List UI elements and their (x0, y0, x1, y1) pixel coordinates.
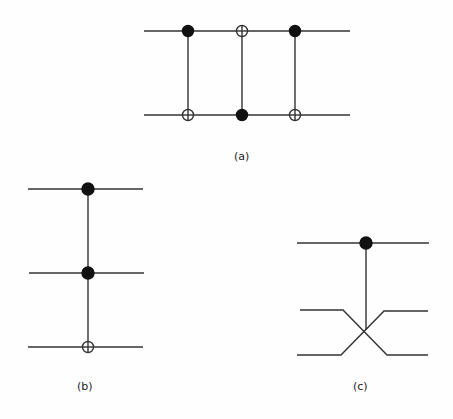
target-oplus-icon (183, 110, 194, 121)
swap-wire-c-2 (300, 310, 428, 355)
swap-wire-c-3 (297, 311, 428, 355)
control-dot-icon (82, 267, 94, 279)
panel-b-label: (b) (77, 380, 93, 393)
circuit-diagram-canvas: (a) (b) (c) (0, 0, 453, 419)
panel-b-circuit (28, 183, 144, 353)
panel-c-label: (c) (353, 380, 368, 393)
panel-a-label: (a) (234, 150, 249, 163)
panel-a-circuit (144, 26, 350, 121)
panel-c-circuit (297, 237, 429, 355)
control-dot-icon (183, 26, 194, 37)
target-oplus-icon (83, 342, 94, 353)
control-dot-icon (82, 183, 94, 195)
control-dot-icon (237, 110, 248, 121)
target-oplus-icon (290, 110, 301, 121)
control-dot-icon (360, 237, 372, 249)
control-dot-icon (290, 26, 301, 37)
target-oplus-icon (237, 26, 248, 37)
circuit-diagrams-svg (0, 0, 453, 419)
